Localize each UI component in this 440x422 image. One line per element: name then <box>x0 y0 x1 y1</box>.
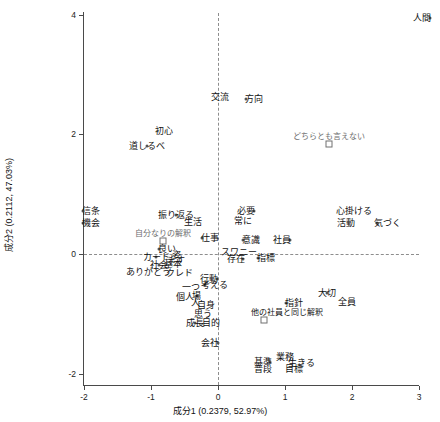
point-label: 指針 <box>285 299 303 308</box>
x-tick-label: 2 <box>350 392 355 402</box>
y-tick-mark <box>79 374 83 375</box>
x-tick-mark <box>419 386 420 390</box>
y-tick-mark <box>79 15 83 16</box>
x-tick-mark <box>218 386 219 390</box>
point-label: 指標 <box>257 253 275 262</box>
reference-line-x-zero <box>218 13 219 385</box>
point-label: 信条 <box>82 206 100 215</box>
y-tick-mark <box>79 134 83 135</box>
point-label: 交流 <box>211 93 229 102</box>
point-label: クレド <box>166 269 193 278</box>
point-label: 会社 <box>201 338 219 347</box>
point-label: 必要 <box>237 206 255 215</box>
y-tick-label: -2 <box>58 369 76 379</box>
point-label: 方向 <box>245 94 263 103</box>
point-label: 目標 <box>285 364 303 373</box>
x-tick-mark <box>285 386 286 390</box>
point-label: 自分なりの解釈 <box>135 228 191 237</box>
point-label: 他の社員と同じ解釈 <box>251 307 323 316</box>
y-tick-mark <box>79 254 83 255</box>
point-label: 社員 <box>273 235 291 244</box>
y-axis-title: 成分2 (0.2112, 47.03%) <box>2 158 15 252</box>
x-tick-mark <box>151 386 152 390</box>
x-tick-mark <box>84 386 85 390</box>
y-tick-label: 0 <box>58 249 76 259</box>
point-label: 初心 <box>155 127 173 136</box>
category-point-marker[interactable] <box>326 140 333 147</box>
x-tick-mark <box>352 386 353 390</box>
y-tick-label: 2 <box>58 129 76 139</box>
point-label: 道しるべ <box>129 142 165 151</box>
x-tick-label: -1 <box>147 392 155 402</box>
category-point-marker[interactable] <box>260 316 267 323</box>
point-label: 考える <box>201 281 228 290</box>
point-label: ます <box>167 255 185 264</box>
x-tick-label: 1 <box>283 392 288 402</box>
point-label: 心掛ける <box>336 206 372 215</box>
point-label: どちらとも言えない <box>293 131 365 140</box>
x-tick-label: 3 <box>417 392 422 402</box>
point-label: 普段 <box>254 364 272 373</box>
point-label: 大切 <box>318 289 336 298</box>
point-label: 存在 <box>227 254 245 263</box>
point-label: 機会 <box>82 218 100 227</box>
scatter-plot-canvas: -2-10123 420-2 人間交流方向初心道しるべどちらとも言えない信条機会… <box>0 0 440 422</box>
point-label: 目的 <box>202 319 220 328</box>
x-axis-title: 成分1 (0.2379, 52.97%) <box>173 404 268 417</box>
point-label: 意識 <box>242 235 260 244</box>
point-label: 活動 <box>337 218 355 227</box>
point-label: 常に <box>234 217 252 226</box>
point-label: 人間 <box>413 13 431 22</box>
point-label: 生活 <box>184 218 202 227</box>
x-tick-label: 0 <box>216 392 221 402</box>
point-label: 仕事 <box>201 234 219 243</box>
x-tick-label: -2 <box>80 392 88 402</box>
x-axis-line <box>83 385 419 386</box>
point-label: 全員 <box>338 297 356 306</box>
y-axis-line <box>83 12 84 386</box>
y-tick-label: 4 <box>58 10 76 20</box>
point-label: 気づく <box>374 218 401 227</box>
